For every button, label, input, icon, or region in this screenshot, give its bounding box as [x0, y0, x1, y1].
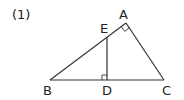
label-d: D	[102, 83, 112, 98]
right-angle-mark-d	[102, 75, 107, 80]
segment-ac	[126, 23, 164, 80]
problem-number: (1)	[12, 7, 30, 22]
label-a: A	[119, 7, 128, 22]
label-c: C	[162, 83, 171, 98]
label-e: E	[100, 21, 108, 36]
segment-ab	[50, 23, 126, 80]
label-b: B	[43, 83, 52, 98]
triangle-diagram: (1) A E B D C	[0, 0, 184, 100]
